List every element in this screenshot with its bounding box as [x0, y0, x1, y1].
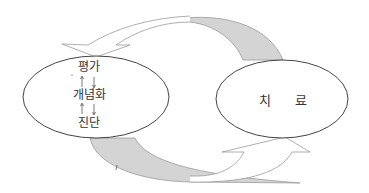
top-arrow-band	[185, 17, 283, 60]
node-label-treatment: 치 료	[259, 90, 317, 109]
node-label-evaluation: 평가	[78, 57, 100, 74]
node-label-diagnosis: 진단	[78, 113, 100, 130]
node-label-conceptualization: 개념화	[73, 85, 106, 102]
dot-mark	[71, 74, 73, 76]
top-curved-arrow	[62, 16, 190, 57]
bottom-curved-arrow	[190, 137, 310, 182]
